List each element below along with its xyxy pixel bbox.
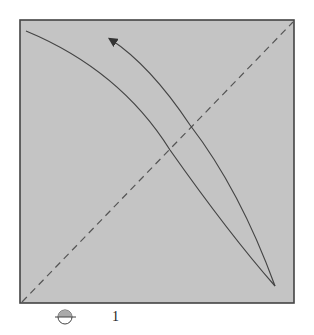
diagram-canvas — [0, 0, 314, 335]
half-filled-circle-icon — [55, 310, 76, 324]
tick-label-one: 1 — [112, 309, 119, 325]
